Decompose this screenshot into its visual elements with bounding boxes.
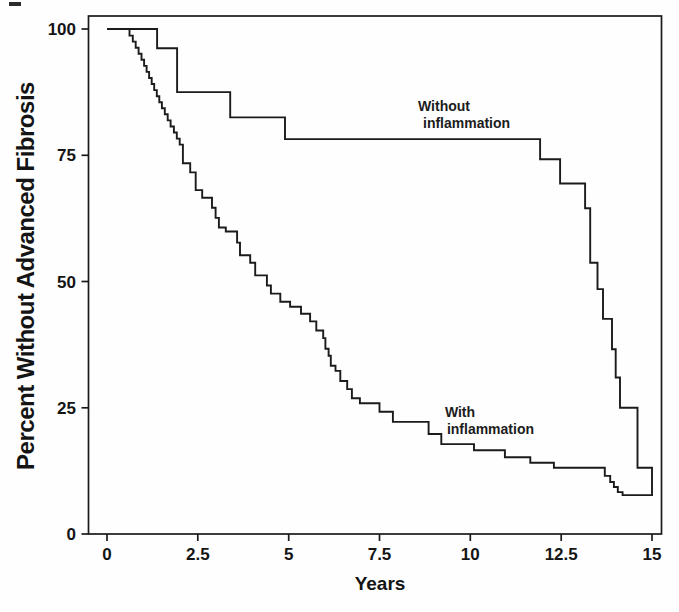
x-tick-label: 7.5 xyxy=(368,545,392,564)
y-tick-label: 75 xyxy=(57,146,76,165)
x-axis-title: Years xyxy=(355,573,406,594)
y-tick-label: 25 xyxy=(57,399,76,418)
x-tick-label: 15 xyxy=(643,545,662,564)
annotation-line: inflammation xyxy=(447,421,534,437)
x-tick-label: 2.5 xyxy=(186,545,210,564)
figure-background xyxy=(0,0,679,612)
annotation-line: inflammation xyxy=(423,115,510,131)
annotation-line: With xyxy=(445,404,475,420)
y-tick-label: 50 xyxy=(57,273,76,292)
figure-container: 02.557.51012.515 0255075100 Years Percen… xyxy=(0,0,679,612)
y-tick-label: 100 xyxy=(48,20,76,39)
y-tick-label: 0 xyxy=(67,525,76,544)
x-tick-label: 0 xyxy=(102,545,111,564)
x-tick-label: 10 xyxy=(461,545,480,564)
kaplan-meier-survival-chart: 02.557.51012.515 0255075100 Years Percen… xyxy=(0,0,679,612)
annotation-line: Without xyxy=(418,98,470,114)
scan-artifact xyxy=(9,2,21,6)
x-tick-label: 5 xyxy=(284,545,293,564)
y-axis-title: Percent Without Advanced Fibrosis xyxy=(12,82,39,470)
x-tick-label: 12.5 xyxy=(545,545,578,564)
